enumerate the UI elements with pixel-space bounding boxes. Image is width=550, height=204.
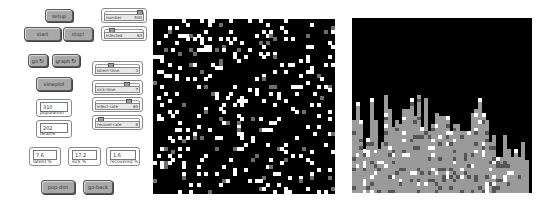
turtle-cell [189, 190, 193, 194]
histogram-cell [374, 127, 378, 131]
turtle-cell [248, 179, 252, 183]
turtle-cell [262, 45, 266, 49]
slider-value: 8 [135, 122, 138, 127]
latent-pct-monitor: 7.6 latent % [29, 147, 61, 166]
turtle-cell [299, 74, 303, 78]
turtle-cell [266, 183, 270, 187]
turtle-cell [200, 70, 204, 74]
histogram-cell [359, 120, 363, 124]
turtle-cell [197, 183, 201, 187]
stop-label: stop! [72, 31, 85, 37]
turtle-cell [331, 30, 335, 34]
world-view[interactable] [153, 19, 335, 194]
turtle-cell [160, 85, 164, 89]
viewplot-label: viewplot [43, 81, 64, 87]
turtle-cell [306, 187, 310, 191]
turtle-cell [328, 117, 332, 121]
turtle-cell [178, 52, 182, 56]
turtle-cell [291, 63, 295, 67]
turtle-cell [266, 41, 270, 45]
histogram-cell [521, 146, 525, 150]
turtle-cell [175, 26, 179, 30]
turtle-cell [215, 172, 219, 176]
histogram-cell [417, 113, 421, 117]
turtle-cell [306, 34, 310, 38]
number-slider[interactable]: number500 [101, 8, 147, 23]
turtle-cell [153, 161, 157, 165]
turtle-cell [259, 117, 263, 121]
turtle-cell [284, 37, 288, 41]
stop-button[interactable]: stop! [63, 27, 93, 41]
turtle-cell [197, 165, 201, 169]
histogram-cell [410, 109, 414, 113]
turtle-cell [284, 19, 288, 23]
turtle-cell [273, 85, 277, 89]
histogram-cell [424, 98, 428, 102]
monitor-label: recovered % [110, 159, 138, 164]
turtle-cell [299, 154, 303, 158]
turtle-cell [331, 150, 335, 154]
slider-label: infected [106, 33, 122, 38]
turtle-cell [171, 139, 175, 143]
turtle-cell [251, 158, 255, 162]
graph-button[interactable]: graph↻ [52, 54, 80, 67]
histogram-cell [359, 135, 363, 139]
histogram-cell [388, 120, 392, 124]
histogram-cell [410, 106, 414, 110]
go-button[interactable]: go↻ [28, 54, 48, 67]
turtle-cell [328, 168, 332, 172]
forever-icon: ↻ [71, 57, 76, 64]
viewplot-button[interactable]: viewplot [36, 77, 72, 91]
pop-dist-button[interactable]: pop-dist [41, 180, 75, 194]
histogram-cell [492, 149, 496, 153]
turtle-cell [299, 59, 303, 63]
turtle-cell [317, 168, 321, 172]
histogram-cell [417, 120, 421, 124]
setup-button[interactable]: setup [45, 9, 73, 22]
turtle-cell [153, 179, 157, 183]
turtle-cell [200, 136, 204, 140]
turtle-cell [331, 132, 335, 136]
turtle-cell [331, 45, 335, 49]
infected-slider[interactable]: infected63 [101, 26, 147, 41]
turtle-cell [175, 77, 179, 81]
latent-time-slider[interactable]: latent-time3 [92, 61, 143, 76]
recover-rate-slider[interactable]: recover-rate8 [92, 115, 143, 130]
histogram-cell [384, 98, 388, 102]
turtle-cell [229, 41, 233, 45]
turtle-cell [229, 158, 233, 162]
plot-view[interactable] [352, 18, 532, 193]
slider-label: number [106, 15, 122, 20]
monitor-label: deaths [40, 131, 55, 136]
turtle-cell [320, 77, 324, 81]
turtle-cell [186, 77, 190, 81]
turtle-cell [317, 190, 321, 194]
turtle-cell [240, 41, 244, 45]
go-back-button[interactable]: go-back [83, 180, 113, 194]
turtle-cell [229, 92, 233, 96]
turtle-cell [306, 81, 310, 85]
go-label: go [32, 58, 38, 64]
turtle-cell [280, 63, 284, 67]
turtle-cell [269, 158, 273, 162]
turtle-cell [255, 77, 259, 81]
turtle-cell [215, 48, 219, 52]
turtle-cell [328, 176, 332, 180]
turtle-cell [164, 147, 168, 151]
turtle-cell [208, 37, 212, 41]
turtle-cell [324, 63, 328, 67]
turtle-cell [178, 121, 182, 125]
turtle-cell [310, 103, 314, 107]
start-button[interactable]: start [24, 27, 61, 41]
turtle-cell [328, 88, 332, 92]
slider-value: 60 [133, 104, 138, 109]
infect-rate-slider[interactable]: infect-rate60 [92, 97, 143, 112]
histogram-cell [485, 135, 489, 139]
sick-time-slider[interactable]: sick-time7 [92, 80, 143, 95]
histogram-cell [359, 138, 363, 142]
histogram-cell [384, 95, 388, 99]
turtle-cell [200, 158, 204, 162]
turtle-cell [317, 114, 321, 118]
turtle-cell [266, 52, 270, 56]
histogram-cell [410, 98, 414, 102]
